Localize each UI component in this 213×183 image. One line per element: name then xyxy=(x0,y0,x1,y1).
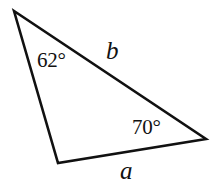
triangle-shape xyxy=(14,11,206,163)
side-label-b: b xyxy=(106,38,119,63)
angle-label-right: 70° xyxy=(132,117,161,138)
triangle-outline-svg xyxy=(0,0,213,183)
side-label-a: a xyxy=(120,158,133,183)
angle-label-apex: 62° xyxy=(37,50,66,71)
triangle-figure: 62° 70° b a xyxy=(0,0,213,183)
